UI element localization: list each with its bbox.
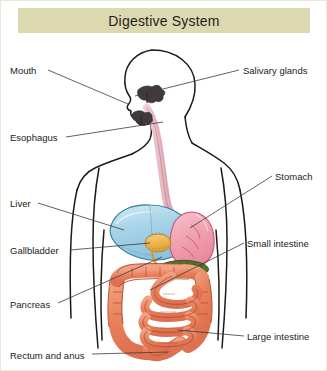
label-small-intestine: Small intestine bbox=[247, 239, 309, 249]
label-esophagus: Esophagus bbox=[10, 133, 58, 143]
leader-line-liver bbox=[38, 203, 124, 230]
anatomy-illustration bbox=[0, 0, 327, 371]
small-intestine-organ bbox=[143, 276, 198, 347]
label-salivary-glands: Salivary glands bbox=[243, 66, 307, 76]
digestive-system-figure: Digestive System bbox=[0, 0, 327, 371]
label-mouth: Mouth bbox=[10, 66, 36, 76]
leader-line-salivary-glands bbox=[135, 70, 239, 96]
label-pancreas: Pancreas bbox=[10, 300, 50, 310]
label-stomach: Stomach bbox=[275, 172, 313, 182]
label-large-intestine: Large intestine bbox=[247, 332, 309, 342]
label-liver: Liver bbox=[10, 199, 31, 209]
leader-line-esophagus bbox=[66, 122, 163, 137]
leader-line-mouth bbox=[48, 70, 128, 104]
label-rectum-and-anus: Rectum and anus bbox=[10, 351, 84, 361]
leader-line-stomach bbox=[190, 176, 272, 228]
label-gallbladder: Gallbladder bbox=[10, 246, 59, 256]
